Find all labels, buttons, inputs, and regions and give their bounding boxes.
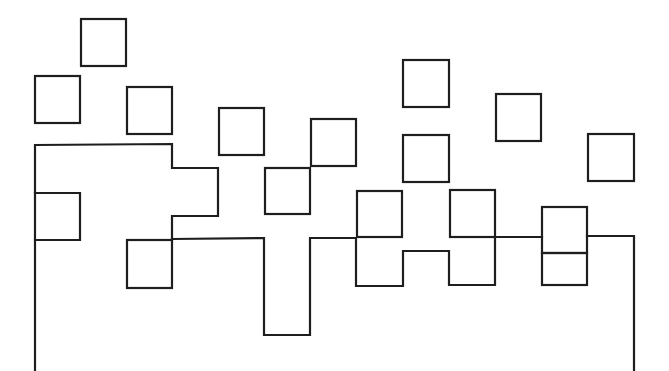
- square-outline: [403, 60, 449, 107]
- upper-left-block-line: [35, 193, 80, 240]
- square-outline: [35, 76, 80, 123]
- square-outline: [127, 240, 172, 288]
- square-outline: [311, 119, 356, 166]
- diagram-canvas: [0, 0, 669, 371]
- square-blocks-drawing: [0, 0, 669, 371]
- square-outline: [127, 87, 172, 134]
- square-outline: [542, 207, 587, 253]
- square-outline: [496, 94, 541, 141]
- square-outline: [265, 168, 310, 214]
- square-outline: [403, 135, 449, 182]
- stepped-outline-group: [35, 144, 634, 371]
- square-outline: [542, 253, 587, 285]
- square-outline: [450, 190, 495, 237]
- square-outlines-group: [35, 19, 634, 288]
- right-edge-line: [587, 236, 634, 371]
- square-outline: [357, 191, 402, 237]
- bottom-profile-line: [172, 237, 542, 335]
- square-outline: [588, 134, 634, 181]
- square-outline: [219, 108, 264, 155]
- square-outline: [81, 19, 126, 66]
